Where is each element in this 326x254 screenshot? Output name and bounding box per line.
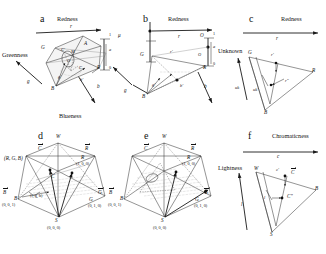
panel-b-label-b-prime: b' — [180, 84, 183, 88]
panel-b-label-r: r — [178, 34, 180, 39]
panel-a-label-G: G — [41, 45, 45, 50]
panel-a-label-O: O — [67, 59, 70, 63]
panel-c-label-r-prime: r' — [271, 53, 274, 57]
panel-b-label-g: g — [124, 88, 127, 93]
panel-e-label-C-vector: C — [144, 146, 147, 151]
panel-b-label-one: 1 — [213, 32, 215, 36]
panel-a-label-A: A — [84, 41, 87, 46]
panel-d-label-G-coord: (0, 1, 0) — [88, 204, 101, 208]
panel-d-label-R: R — [81, 155, 84, 160]
panel-a-label-r: r — [70, 24, 72, 29]
panel-c-label-B: B — [264, 110, 267, 115]
panel-f-label-S: S — [270, 232, 273, 237]
panel-a-axis-greenness: Greenness — [2, 52, 28, 58]
panel-e-label-G-vector: G — [204, 190, 208, 195]
panel-letter-e: e — [144, 131, 148, 141]
panel-b-label-g-prime: g' — [152, 83, 155, 87]
panel-f-label-W: W — [254, 166, 258, 171]
panel-a-label-C: C — [79, 66, 82, 70]
panel-a-label-R: R — [97, 65, 100, 70]
panel-f-lines — [239, 152, 318, 232]
panel-b-label-R: R — [203, 65, 206, 70]
panel-f-label-B: B — [315, 186, 318, 191]
panel-b-axis-redness: Redness — [168, 16, 189, 22]
panel-a-label-b: b — [97, 84, 100, 89]
panel-d-label-G: G — [89, 197, 93, 202]
panel-a-label-g: g — [27, 79, 30, 84]
panel-e-label-S: S — [161, 218, 164, 223]
panel-c-lines — [238, 33, 318, 110]
panel-a-axis-redness: Redness — [57, 16, 78, 22]
panel-f-label-l-o: l — [264, 196, 265, 200]
panel-e-label-W: W — [162, 134, 166, 139]
panel-b-label-G: G — [140, 52, 144, 57]
panel-f-axis-chromaticness: Chromaticness — [272, 133, 309, 139]
panel-d-label-C-vector: C — [38, 146, 41, 151]
panel-e-label-B-vector: B — [109, 190, 112, 195]
panel-d-label-G-vector: G — [98, 190, 102, 195]
panel-d-label-W: W — [56, 134, 60, 139]
panel-c-label-uk-prime: uk' — [253, 88, 258, 92]
panel-letter-f: f — [248, 131, 251, 141]
panel-a-axis-blueness: Blueness — [59, 113, 81, 119]
panel-c-axis-redness: Redness — [281, 16, 302, 22]
panel-e-label-B: B — [120, 196, 123, 201]
panel-a-label-B: B — [51, 86, 54, 91]
panel-f-label-c-prime: c' — [276, 168, 279, 172]
panel-letter-d: d — [38, 131, 43, 141]
panel-e-label-R-coord: (1, 0, 0) — [182, 162, 195, 166]
panel-a-label-g-prime: g' — [58, 75, 61, 79]
panel-f-label-c: c — [277, 154, 279, 159]
panel-c-label-r-dprime: r" — [285, 79, 289, 83]
panel-f-label-l: l — [241, 202, 242, 207]
panel-letter-b: b — [143, 14, 148, 24]
panel-b-lines — [113, 22, 214, 103]
panel-d-label-B: B — [14, 196, 17, 201]
panel-c-axis-unknown: Unknown — [218, 48, 242, 54]
panel-c-label-R: R — [312, 68, 315, 73]
panel-d-label-B-vector: B — [3, 190, 6, 195]
panel-f-label-C-dprime: C" — [287, 194, 293, 199]
figure-canvas: a Redness Greenness Blueness r G A C' M … — [0, 0, 326, 254]
panel-e-label-R: R — [187, 155, 190, 160]
panel-a-label-one: 1 — [109, 33, 111, 37]
panel-e-label-G-coord: (0, 1, 0) — [194, 204, 207, 208]
panel-b-label-r-prime: r' — [170, 50, 173, 54]
panel-d-label-rgb-tuple: (R, G, B) — [4, 156, 23, 161]
panel-a-label-zero: 0 — [109, 66, 111, 70]
panel-d-label-B-coord: (0, 0, 1) — [2, 203, 15, 207]
panel-d-label-S-coord: (0, 0, 0) — [47, 226, 60, 230]
panel-e-label-G: G — [195, 197, 199, 202]
panel-a-label-M: M — [71, 50, 75, 54]
panel-b-label-a: a — [213, 45, 215, 49]
panel-d-label-R-vector: R — [85, 146, 88, 151]
panel-d-label-R-coord: (1, 0, 0) — [76, 162, 89, 166]
panel-b-label-O-b: O — [198, 53, 201, 57]
panel-a-label-b-prime: b' — [80, 78, 83, 82]
panel-d-label-C: C — [51, 174, 54, 179]
panel-f-axis-lightness: Lightness — [218, 165, 242, 171]
panel-c-label-G: G — [248, 50, 252, 55]
panel-e-label-S-coord: (0, 0, 0) — [153, 226, 166, 230]
panel-letter-c: c — [249, 14, 253, 24]
panel-c-label-uk: uk — [235, 86, 239, 90]
panel-f-label-C-vector: C — [291, 170, 294, 175]
panel-a-label-a: a — [109, 48, 111, 52]
panel-a-lines — [16, 30, 110, 103]
panel-a-label-C-prime: C' — [61, 48, 65, 52]
panel-b-label-zero: 0 — [213, 62, 215, 66]
panel-b-label-b: b — [204, 84, 207, 89]
panel-c-label-r: r — [276, 36, 278, 41]
panel-b-label-B: B — [142, 94, 145, 99]
panel-a-label-mu: μ — [118, 33, 121, 38]
panel-d-label-inner-coord: (r, g, b) — [30, 194, 42, 198]
panel-letter-a: a — [40, 14, 44, 24]
panel-e-label-R-vector: R — [191, 146, 194, 151]
panel-d-label-S: S — [55, 218, 58, 223]
panel-b-label-O-a: O — [200, 33, 204, 38]
panel-e-label-B-coord: (0, 0, 1) — [108, 203, 121, 207]
